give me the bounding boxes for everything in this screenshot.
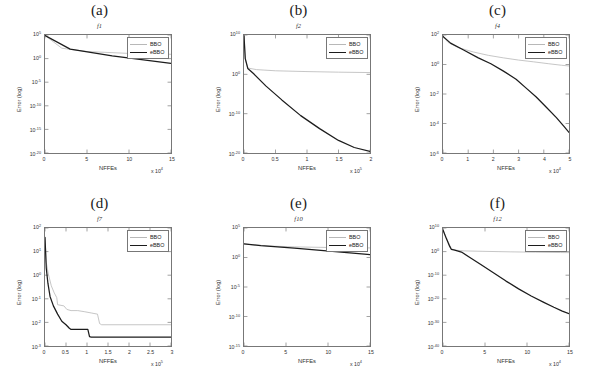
legend-swatch-bbo-icon: [130, 44, 147, 45]
legend-item-bbo: BBO: [130, 40, 165, 48]
legend-swatch-ebbo-icon: [329, 245, 346, 246]
y-tick-label: 1010: [429, 224, 439, 231]
legend: BBOeBBO: [525, 37, 567, 59]
legend-swatch-bbo-icon: [329, 237, 346, 238]
panel-f2: (b)f2101010010-1010-2000.511.52Error (lo…: [199, 0, 398, 193]
legend-swatch-ebbo-icon: [528, 52, 545, 53]
x-tick-label: 0: [43, 156, 46, 162]
y-tick-label: 100: [431, 248, 439, 255]
panel-title: (f): [398, 195, 597, 212]
legend-label: eBBO: [349, 48, 363, 56]
legend-label: BBO: [150, 40, 161, 48]
x-tick-label: 0.5: [62, 349, 69, 355]
x-tick-label: 5: [284, 349, 287, 355]
x-axis-multiplier: x 104: [549, 360, 561, 367]
y-tick-label: 10-5: [231, 284, 240, 291]
y-tick-label: 100: [33, 272, 41, 279]
x-tick-label: 1: [466, 156, 469, 162]
x-axis-label: NFFEs: [99, 358, 117, 364]
x-tick-label: 0: [242, 156, 245, 162]
y-axis-label: Error (log): [16, 280, 22, 305]
panel-function-label: f4: [398, 22, 597, 29]
legend-item-bbo: BBO: [528, 233, 563, 241]
legend-item-ebbo: eBBO: [329, 48, 364, 56]
panel-title: (d): [0, 195, 199, 212]
y-tick-label: 10-10: [30, 103, 41, 110]
panel-f7: (d)f710210110010-110-210-300.511.522.53E…: [0, 193, 199, 386]
y-tick-label: 10-2: [430, 91, 439, 98]
x-tick-label: 10: [325, 349, 331, 355]
legend-label: eBBO: [150, 48, 164, 56]
panel-function-label: f10: [199, 215, 398, 222]
panel-title: (a): [0, 2, 199, 19]
series-line-ebbo: [244, 244, 370, 319]
y-tick-label: 100: [33, 55, 41, 62]
legend-item-bbo: BBO: [329, 233, 364, 241]
panel-function-label: f1: [0, 22, 199, 29]
legend-swatch-bbo-icon: [528, 44, 545, 45]
legend-label: BBO: [548, 233, 559, 241]
x-axis-multiplier: x 105: [151, 360, 163, 367]
y-tick-label: 10-5: [32, 79, 41, 86]
legend: BBOeBBO: [127, 37, 169, 59]
legend-label: BBO: [150, 233, 161, 241]
panel-title: (b): [199, 2, 398, 19]
legend-label: eBBO: [349, 241, 363, 249]
x-tick-label: 5: [569, 156, 572, 162]
x-tick-label: 1.5: [335, 156, 342, 162]
panel-f12: (f)f12101010010-1010-2010-3010-40051015E…: [398, 193, 597, 386]
legend-swatch-ebbo-icon: [528, 245, 545, 246]
x-tick-label: 5: [85, 156, 88, 162]
legend-swatch-ebbo-icon: [329, 52, 346, 53]
y-tick-label: 100: [232, 71, 240, 78]
y-tick-label: 100: [232, 254, 240, 261]
x-tick-label: 10: [126, 156, 132, 162]
y-tick-label: 105: [33, 31, 41, 38]
legend-item-bbo: BBO: [130, 233, 165, 241]
legend-label: BBO: [548, 40, 559, 48]
x-tick-label: 3: [517, 156, 520, 162]
x-axis-multiplier: x 104: [151, 167, 163, 174]
y-tick-label: 10-6: [430, 151, 439, 158]
x-tick-label: 0: [43, 349, 46, 355]
x-axis-label: NFFEs: [298, 165, 316, 171]
legend-label: eBBO: [150, 241, 164, 249]
y-tick-label: 10-20: [428, 296, 439, 303]
y-tick-label: 102: [33, 224, 41, 231]
legend-item-ebbo: eBBO: [528, 241, 563, 249]
legend-item-ebbo: eBBO: [528, 48, 563, 56]
legend-swatch-ebbo-icon: [130, 245, 147, 246]
series-line-ebbo: [45, 237, 171, 337]
y-tick-label: 10-10: [229, 314, 240, 321]
panel-function-label: f2: [199, 22, 398, 29]
x-tick-label: 1.5: [104, 349, 111, 355]
legend: BBOeBBO: [326, 37, 368, 59]
x-tick-label: 1: [306, 156, 309, 162]
y-tick-label: 10-15: [30, 127, 41, 134]
x-tick-label: 1: [85, 349, 88, 355]
y-tick-label: 10-20: [229, 151, 240, 158]
x-tick-label: 2: [492, 156, 495, 162]
x-axis-multiplier: x 105: [350, 167, 362, 174]
x-tick-label: 4: [543, 156, 546, 162]
y-tick-label: 10-20: [30, 151, 41, 158]
panel-title: (e): [199, 195, 398, 212]
y-tick-label: 10-2: [32, 320, 41, 327]
y-tick-label: 105: [232, 224, 240, 231]
legend-label: BBO: [349, 233, 360, 241]
legend-item-ebbo: eBBO: [329, 241, 364, 249]
y-axis-label: Error (log): [215, 280, 221, 305]
legend-swatch-bbo-icon: [528, 237, 545, 238]
y-tick-label: 10-40: [428, 344, 439, 351]
x-axis-multiplier: x 104: [350, 360, 362, 367]
y-tick-label: 101: [33, 248, 41, 255]
legend-label: eBBO: [548, 48, 562, 56]
y-tick-label: 10-1: [32, 296, 41, 303]
legend-swatch-bbo-icon: [329, 44, 346, 45]
x-axis-label: NFFEs: [298, 358, 316, 364]
x-tick-label: 0: [441, 156, 444, 162]
x-tick-label: 15: [169, 156, 175, 162]
legend-item-ebbo: eBBO: [130, 48, 165, 56]
y-axis-label: Error (log): [215, 87, 221, 112]
panel-f1: (a)f110510010-510-1010-1510-20051015Erro…: [0, 0, 199, 193]
